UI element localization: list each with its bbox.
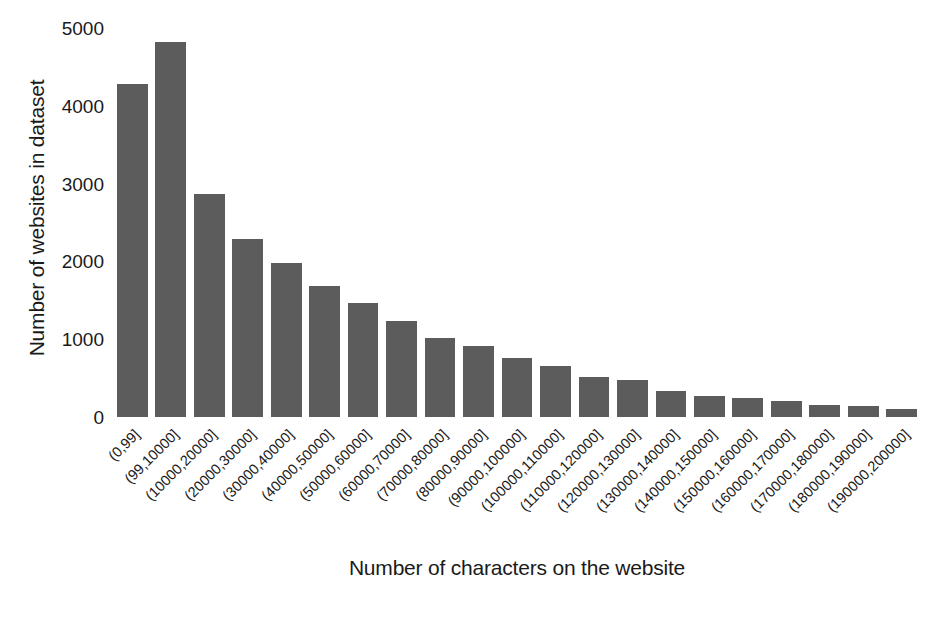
y-tick-label: 1000 xyxy=(38,330,104,349)
bar xyxy=(348,303,379,417)
bar xyxy=(117,84,148,417)
x-axis-title: Number of characters on the website xyxy=(113,556,921,580)
bar xyxy=(540,366,571,417)
bar xyxy=(463,346,494,417)
bar xyxy=(502,358,533,417)
bar xyxy=(425,338,456,417)
y-tick-label: 4000 xyxy=(38,96,104,115)
bar xyxy=(771,401,802,417)
bar xyxy=(886,409,917,417)
bar xyxy=(155,42,186,417)
y-tick-label: 5000 xyxy=(38,19,104,38)
bar xyxy=(194,194,225,417)
y-tick-label: 3000 xyxy=(38,174,104,193)
bar xyxy=(386,321,417,417)
bar xyxy=(694,396,725,417)
bar xyxy=(232,239,263,417)
bar xyxy=(579,377,610,417)
bar xyxy=(732,398,763,417)
y-tick-label: 0 xyxy=(38,408,104,427)
bar xyxy=(656,391,687,417)
x-axis-tick-labels: (0,99](99,10000](10000,20000](20000,3000… xyxy=(113,417,921,552)
bar xyxy=(271,263,302,417)
bar xyxy=(309,286,340,417)
bar-chart: Number of websites in dataset 0100020003… xyxy=(0,0,927,617)
y-tick-label: 2000 xyxy=(38,252,104,271)
bar xyxy=(848,406,879,417)
bar xyxy=(617,380,648,417)
bar xyxy=(809,405,840,417)
plot-area xyxy=(113,28,921,417)
